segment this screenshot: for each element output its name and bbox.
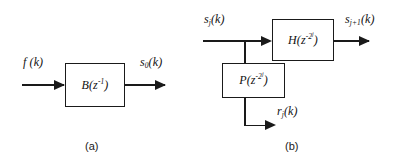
panel-b-input-line (203, 40, 246, 42)
panel-b-block-h-close: ) (314, 33, 318, 47)
panel-b-output-top-label: sj+1(k) (345, 12, 375, 27)
panel-b-block-p-base: P(z (239, 73, 255, 87)
panel-b-input-rest: (k) (211, 12, 225, 26)
figure-canvas: f (k) B(z-1) s0(k) (a) sj(k) (0, 0, 401, 166)
panel-b-block-h: H(z-2j) (272, 19, 334, 61)
panel-b: sj(k) H(z-2j) sj+1(k) P(z-2j) (0, 0, 401, 166)
panel-b-caption-text: (b) (285, 140, 298, 152)
panel-b-output-top-arrowhead (359, 36, 370, 46)
panel-b-output-bottom-arrowhead (265, 120, 276, 130)
panel-b-output-top-subscript: j+1 (350, 18, 361, 27)
panel-b-junction-drop-line (244, 40, 246, 63)
panel-b-block-p-exponent: -2j (256, 72, 264, 81)
panel-b-output-top-rest: (k) (361, 12, 375, 26)
panel-b-block-h-exponent: -2j (306, 32, 314, 41)
panel-b-block-h-base: H(z (288, 33, 306, 47)
panel-b-block-p-close: ) (264, 73, 268, 87)
panel-b-output-bottom-label: rj(k) (277, 104, 298, 119)
panel-b-p-output-drop-line (244, 98, 246, 126)
panel-b-input-label: sj(k) (204, 12, 225, 27)
panel-b-block-p: P(z-2j) (222, 63, 285, 98)
panel-b-caption: (b) (285, 140, 298, 152)
panel-b-block-p-label: P(z-2j) (239, 73, 268, 88)
panel-b-h-input-arrowhead (261, 36, 272, 46)
panel-b-block-h-label: H(z-2j) (288, 33, 318, 48)
panel-b-output-bottom-rest: (k) (284, 104, 298, 118)
